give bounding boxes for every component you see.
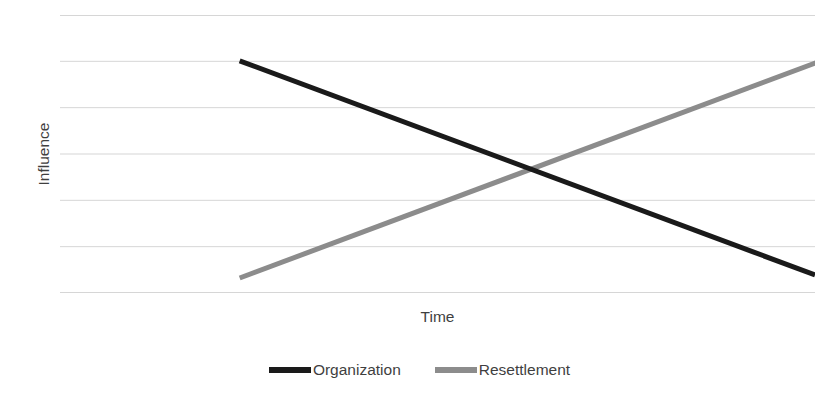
data-series-layer (60, 15, 815, 293)
legend-item-resettlement[interactable]: Resettlement (435, 361, 570, 379)
plot-area (60, 15, 815, 293)
chart-legend: Organization Resettlement (0, 361, 839, 379)
x-axis-title: Time (60, 308, 815, 326)
legend-swatch-resettlement (435, 367, 477, 373)
line-chart-figure: Influence Time Organization Resettlement (0, 0, 839, 409)
legend-item-organization[interactable]: Organization (269, 361, 401, 379)
legend-label-organization: Organization (313, 361, 401, 379)
y-axis-title: Influence (34, 15, 54, 293)
legend-swatch-organization (269, 367, 311, 373)
legend-label-resettlement: Resettlement (479, 361, 570, 379)
